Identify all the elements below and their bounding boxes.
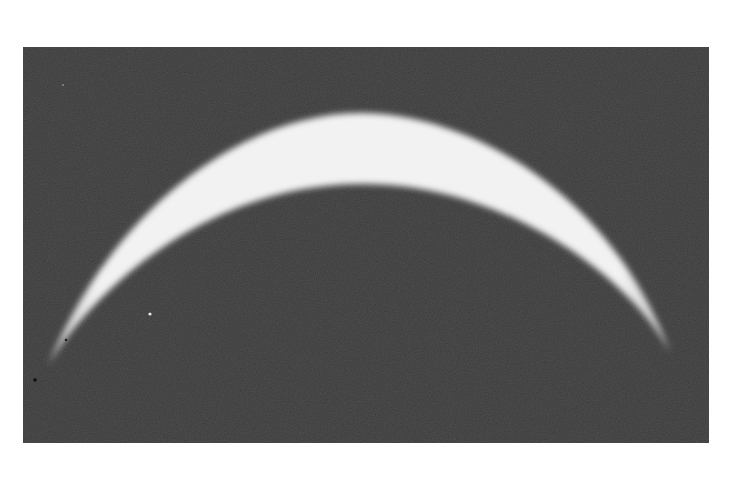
speck [148,312,151,315]
speck [33,378,37,382]
photograph [23,47,709,443]
crescent-illustration [23,47,709,443]
speck [65,339,67,341]
speck [62,84,64,86]
